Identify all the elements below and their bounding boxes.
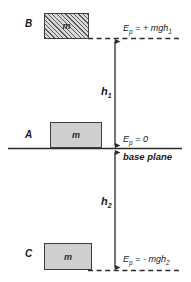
- block-a-label: A: [25, 130, 32, 140]
- energy-label-top: Ep = + mgh1: [123, 24, 172, 35]
- block-b: m: [44, 13, 89, 39]
- height-2-label: h2: [101, 196, 112, 209]
- energy-equals-middle: = 0: [135, 134, 148, 144]
- energy-value-subscript-top: 1: [168, 28, 172, 35]
- energy-equals-bottom: = - mgh: [135, 254, 166, 264]
- block-a-mass-label: m: [72, 130, 80, 140]
- height-1-subscript: 1: [108, 92, 112, 99]
- block-b-label: B: [25, 19, 32, 29]
- block-a: m: [50, 122, 102, 148]
- potential-energy-diagram: B m A m C m Ep = + mgh1 Ep = 0 Ep = - mg…: [0, 0, 191, 282]
- height-2-subscript: 2: [108, 202, 112, 209]
- block-c: m: [44, 243, 92, 270]
- energy-subscript-middle: p: [129, 139, 133, 146]
- height-2-symbol: h: [101, 195, 108, 207]
- height-1-label: h1: [101, 86, 112, 99]
- block-b-mass-label: m: [62, 21, 70, 31]
- energy-equals-top: = + mgh: [135, 23, 168, 33]
- block-c-label: C: [25, 249, 32, 259]
- energy-label-bottom: Ep = - mgh2: [123, 255, 170, 266]
- energy-subscript-bottom: p: [129, 259, 133, 266]
- energy-subscript-top: p: [129, 28, 133, 35]
- energy-value-subscript-bottom: 2: [166, 259, 170, 266]
- base-plane-caption: base plane: [123, 152, 172, 162]
- energy-label-middle: Ep = 0: [123, 135, 148, 146]
- block-c-mass-label: m: [64, 252, 72, 262]
- height-1-symbol: h: [101, 85, 108, 97]
